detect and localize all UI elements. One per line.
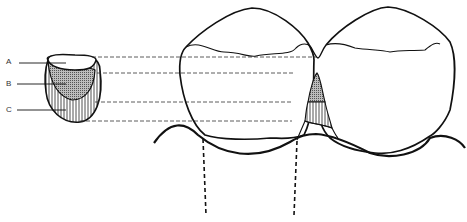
interproximal-zones (297, 73, 338, 140)
right-crown (318, 7, 455, 153)
tooth-cross-section (45, 55, 101, 123)
root-lines (203, 139, 297, 215)
label-b: B (6, 79, 11, 88)
label-c: C (6, 105, 12, 114)
dental-diagram: A B C (0, 0, 467, 222)
left-crown (180, 8, 314, 139)
label-a: A (6, 57, 12, 66)
projection-lines (80, 57, 317, 121)
